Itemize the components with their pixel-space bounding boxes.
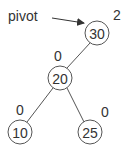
tree-node-25: 25 0 — [78, 104, 109, 144]
node-value: 20 — [52, 71, 68, 87]
edge-20-25 — [67, 88, 84, 122]
node-value: 30 — [89, 26, 105, 42]
balance-factor: 2 — [113, 7, 121, 23]
balance-factor: 0 — [54, 48, 62, 64]
node-value: 25 — [82, 125, 98, 141]
edge-30-20 — [67, 43, 90, 68]
pivot-arrow-icon — [52, 18, 84, 23]
tree-node-30: 30 2 — [85, 7, 121, 45]
pivot-label: pivot — [8, 8, 38, 24]
balance-factor: 0 — [16, 102, 24, 118]
balance-factor: 0 — [101, 104, 109, 120]
edge-20-10 — [27, 88, 53, 122]
node-value: 10 — [12, 125, 28, 141]
tree-node-10: 10 0 — [8, 102, 32, 144]
tree-diagram: pivot 30 2 20 0 10 0 25 0 — [0, 0, 126, 154]
tree-node-20: 20 0 — [48, 48, 72, 90]
